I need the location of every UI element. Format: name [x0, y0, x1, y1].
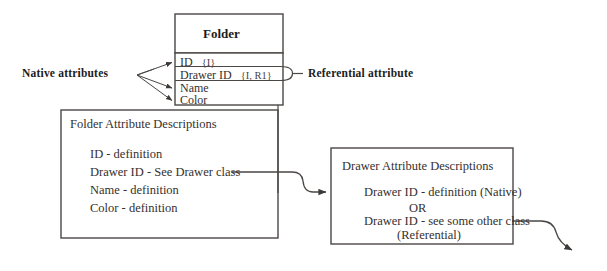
folder-attribute-drawer-id: Drawer ID {I, R1}	[180, 69, 272, 82]
folder-attribute-drawer-id-name: Drawer ID	[180, 68, 232, 82]
drawer-description-line-0: Drawer ID - definition (Native)	[364, 186, 522, 199]
folder-class-title: Folder	[203, 27, 240, 40]
folder-attribute-name: Name	[180, 82, 209, 94]
native-attribute-pointers	[137, 63, 172, 101]
folder-description-line-3: Color - definition	[90, 202, 178, 215]
folder-description-line-1: Drawer ID - See Drawer class	[90, 166, 240, 179]
folder-description-line-2: Name - definition	[90, 184, 179, 197]
folder-attribute-id-tag: {I}	[202, 57, 216, 68]
drawer-description-line-2: Drawer ID - see some other class	[364, 215, 530, 228]
drawer-descriptions-title: Drawer Attribute Descriptions	[342, 160, 493, 173]
drawer-description-line-1: OR	[409, 202, 426, 215]
folder-attribute-color: Color	[180, 94, 207, 106]
diagram-canvas: Native attributes Referential attribute …	[0, 0, 607, 271]
folder-attribute-drawer-id-tag: {I, R1}	[241, 70, 272, 81]
drawer-description-line-3: (Referential)	[397, 229, 461, 242]
referential-attribute-label: Referential attribute	[308, 68, 413, 80]
folder-description-line-0: ID - definition	[90, 148, 162, 161]
diagram-vector-layer	[0, 0, 607, 271]
folder-descriptions-title: Folder Attribute Descriptions	[70, 118, 217, 131]
drawer-class-reference-arrow	[232, 172, 326, 192]
native-attributes-label: Native attributes	[22, 68, 108, 80]
